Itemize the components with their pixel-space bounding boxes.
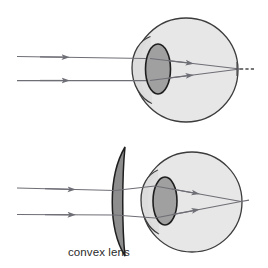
panel-corrected: convex lens [17, 147, 249, 258]
eye-diagram-figure: convex lens [0, 0, 268, 268]
convex-lens-label: convex lens [68, 246, 130, 258]
convex-lens [112, 147, 125, 256]
diagram-canvas: convex lens [0, 0, 268, 268]
ray-upper-incoming [17, 57, 146, 59]
ray-upper-incoming-arrow [45, 189, 72, 190]
eye-crystalline-lens [146, 44, 171, 94]
panel-uncorrected [17, 18, 256, 122]
